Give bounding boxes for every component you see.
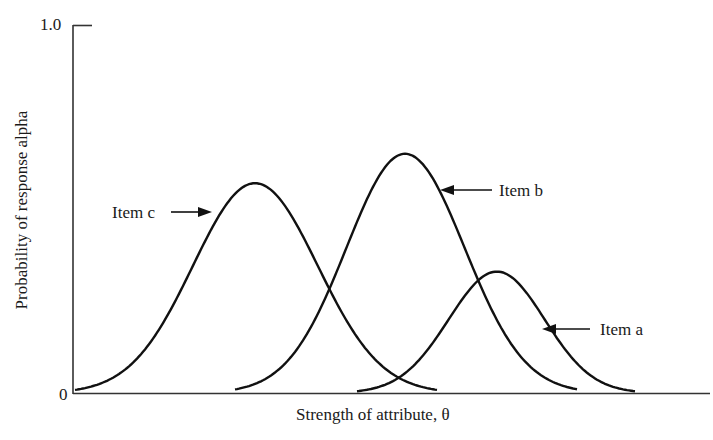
x-axis-label: Strength of attribute, θ xyxy=(296,405,450,425)
y-axis-label: Probability of response alpha xyxy=(12,111,32,310)
chart-plot xyxy=(0,0,713,440)
label-item-b: Item b xyxy=(499,181,543,201)
y-tick-label-bottom: 0 xyxy=(59,385,68,405)
y-tick-label-top: 1.0 xyxy=(40,15,61,35)
curve-item-a xyxy=(357,272,635,392)
annotation-arrows xyxy=(171,185,590,334)
curves xyxy=(75,154,635,391)
label-item-c: Item c xyxy=(112,203,155,223)
label-item-a: Item a xyxy=(600,320,643,340)
arrowhead-item-c xyxy=(198,207,212,217)
